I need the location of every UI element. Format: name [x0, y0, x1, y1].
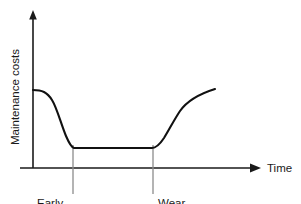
bathtub-curve-chart: Maintenance costs Early failures Wear ph… [0, 0, 301, 204]
early-failures-label-line-1: Early [37, 197, 74, 204]
x-axis-arrowhead [250, 164, 261, 173]
early-failures-label: Early failures [37, 171, 74, 204]
y-axis-arrowhead [29, 10, 37, 20]
y-axis-label: Maintenance costs [9, 5, 22, 145]
wear-phase-label-line-1: Wear [158, 197, 189, 204]
wear-phase-label: Wear phase [158, 171, 189, 204]
maintenance-cost-curve [33, 89, 215, 148]
x-axis-label: Time [267, 162, 292, 175]
